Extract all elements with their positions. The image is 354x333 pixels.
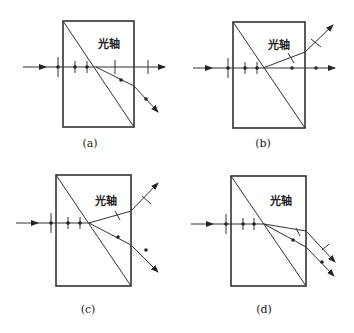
panel-c bbox=[16, 175, 158, 286]
panel-a bbox=[23, 21, 165, 127]
optic-axis-label-d: 光轴 bbox=[270, 192, 292, 208]
panel-d bbox=[191, 176, 335, 286]
interface-line bbox=[231, 176, 306, 286]
panel-b bbox=[193, 22, 335, 128]
birefringent-prism-diagram bbox=[0, 0, 354, 333]
caption-d: (d) bbox=[256, 303, 272, 316]
optic-axis-label-a: 光轴 bbox=[98, 35, 120, 51]
interface-line bbox=[56, 175, 131, 286]
optic-axis-label-c: 光轴 bbox=[95, 192, 117, 208]
caption-c: (c) bbox=[81, 303, 96, 316]
caption-a: (a) bbox=[82, 137, 97, 150]
caption-b: (b) bbox=[255, 137, 271, 150]
optic-axis-label-b: 光轴 bbox=[268, 36, 290, 52]
